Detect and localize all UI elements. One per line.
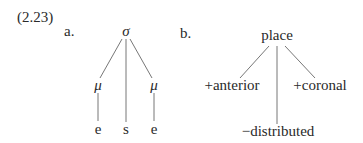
branch-place-anterior: [240, 46, 269, 78]
segment-e-right: e: [151, 122, 158, 137]
segment-e-left: e: [95, 122, 102, 137]
tree-b-label: b.: [180, 26, 191, 41]
segment-s: s: [123, 122, 129, 137]
anterior-node: +anterior: [204, 78, 259, 93]
distributed-node: −distributed: [242, 124, 315, 139]
branch-place-coronal: [285, 46, 315, 78]
example-number: (2.23): [17, 10, 53, 25]
tree-a-label: a.: [64, 24, 74, 39]
mu-left-node: μ: [94, 78, 102, 93]
branch-sigma-mu-left: [100, 39, 122, 78]
mu-right-node: μ: [150, 78, 158, 93]
place-node: place: [261, 28, 293, 43]
branch-sigma-mu-right: [130, 39, 152, 78]
tree-branches: [0, 0, 363, 143]
sigma-node: σ: [122, 24, 129, 39]
coronal-node: +coronal: [293, 78, 346, 93]
